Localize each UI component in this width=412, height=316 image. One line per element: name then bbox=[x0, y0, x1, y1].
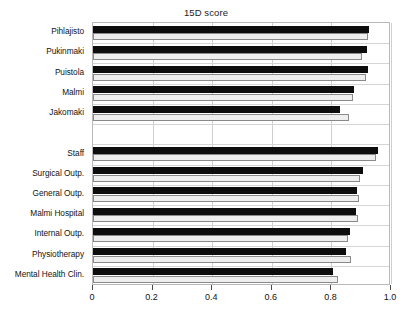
bar bbox=[93, 167, 363, 174]
x-axis-tick bbox=[271, 285, 272, 290]
bar bbox=[93, 33, 368, 40]
bar bbox=[93, 53, 362, 60]
chart-title: 15D score bbox=[0, 7, 412, 18]
bar bbox=[93, 94, 353, 101]
y-axis-tick-label: Puistola bbox=[55, 67, 84, 77]
x-axis-tick-label: 0 bbox=[89, 292, 94, 302]
x-axis-tick-label: 0.4 bbox=[205, 292, 218, 302]
y-axis-tick-label: Malmi bbox=[62, 87, 84, 97]
bar bbox=[93, 276, 338, 283]
y-axis-tick-label: Physiotherapy bbox=[32, 249, 84, 259]
x-axis-tick-label: 0.2 bbox=[145, 292, 158, 302]
bar bbox=[93, 268, 333, 275]
x-axis-tick bbox=[211, 285, 212, 290]
bar bbox=[93, 66, 368, 73]
x-axis: 00.20.40.60.81.0 bbox=[92, 285, 390, 315]
x-axis-tick-label: 1.0 bbox=[384, 292, 397, 302]
y-axis-tick-label: Staff bbox=[67, 148, 84, 158]
bar bbox=[93, 46, 367, 53]
bar bbox=[93, 228, 350, 235]
x-axis-tick bbox=[390, 285, 391, 290]
bar bbox=[93, 74, 366, 81]
x-axis-tick bbox=[330, 285, 331, 290]
x-axis-tick-label: 0.8 bbox=[324, 292, 337, 302]
gridline-vertical bbox=[391, 23, 392, 284]
y-axis-labels: PihlajistoPukinmakiPuistolaMalmiJakomaki… bbox=[0, 22, 88, 285]
y-axis-tick-label: Surgical Outp. bbox=[32, 168, 84, 178]
y-axis-tick-label: Internal Outp. bbox=[34, 228, 84, 238]
bar bbox=[93, 187, 357, 194]
plot-area bbox=[92, 22, 390, 285]
y-axis-tick-label: Pihlajisto bbox=[51, 26, 84, 36]
y-axis-tick-label: Malmi Hospital bbox=[30, 208, 84, 218]
bar bbox=[93, 86, 354, 93]
bar bbox=[93, 175, 360, 182]
bar bbox=[93, 208, 356, 215]
bar bbox=[93, 154, 376, 161]
bars-layer bbox=[93, 23, 389, 284]
y-axis-tick-label: Jakomaki bbox=[49, 107, 84, 117]
x-axis-tick bbox=[152, 285, 153, 290]
x-axis-tick-label: 0.6 bbox=[265, 292, 278, 302]
bar bbox=[93, 215, 358, 222]
bar bbox=[93, 26, 369, 33]
bar bbox=[93, 248, 346, 255]
y-axis-tick-label: General Outp. bbox=[33, 188, 84, 198]
y-axis-tick-label: Mental Health Clin. bbox=[15, 269, 84, 279]
bar bbox=[93, 106, 340, 113]
y-axis-tick-label: Pukinmaki bbox=[46, 46, 84, 56]
bar bbox=[93, 235, 348, 242]
chart-container: 15D score PihlajistoPukinmakiPuistolaMal… bbox=[0, 0, 412, 316]
bar bbox=[93, 147, 378, 154]
x-axis-tick bbox=[92, 285, 93, 290]
bar bbox=[93, 114, 349, 121]
bar bbox=[93, 195, 359, 202]
bar bbox=[93, 256, 351, 263]
